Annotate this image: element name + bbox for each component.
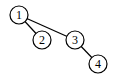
- node-4-label: 4: [95, 57, 101, 71]
- node-1: 1: [10, 6, 28, 24]
- node-3: 3: [66, 31, 84, 49]
- node-4: 4: [89, 55, 107, 73]
- node-3-label: 3: [72, 33, 78, 47]
- node-2: 2: [33, 31, 51, 49]
- node-1-label: 1: [16, 8, 22, 22]
- edges: [19, 15, 98, 64]
- node-2-label: 2: [39, 33, 45, 47]
- tree-diagram: 1 2 3 4: [0, 0, 118, 83]
